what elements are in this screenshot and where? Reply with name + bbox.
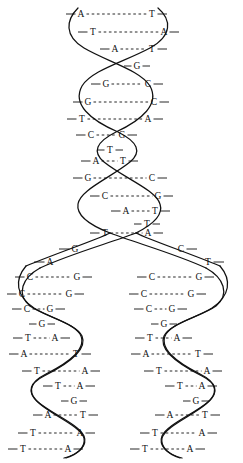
base-letter: T	[90, 27, 96, 37]
base-letter: A	[174, 333, 181, 343]
base-pair-row: CG	[129, 289, 206, 299]
base-letter: T	[30, 428, 36, 438]
base-letter: C	[141, 289, 147, 299]
base-letter: T	[147, 333, 153, 343]
base-pair-row: AT	[155, 410, 220, 420]
base-letter: C	[151, 97, 157, 107]
base-letter: G	[155, 191, 162, 201]
base-pair-row: CG	[134, 304, 187, 314]
base-letter: G	[85, 97, 92, 107]
base-pair-row: AT	[66, 9, 167, 19]
base-letter: T	[152, 206, 158, 216]
base-letter: T	[156, 366, 162, 376]
base-pair-row: G	[29, 319, 55, 329]
base-letter: T	[205, 257, 211, 267]
base-letter: T	[142, 444, 148, 454]
base-letter: A	[112, 44, 119, 54]
base-letter: T	[34, 366, 40, 376]
base-pair-row: CG	[90, 191, 173, 201]
base-letter: A	[45, 410, 52, 420]
base-letter: A	[145, 114, 152, 124]
base-pair-rung-layer: ATTAATGGCGCTACGTATGCCGATTTACGCGCGGTAATTA…	[7, 9, 222, 454]
base-letter: G	[161, 319, 168, 329]
base-pair-row: TA	[144, 366, 222, 376]
base-letter: C	[149, 173, 155, 183]
base-letter: A	[77, 381, 84, 391]
base-letter: G	[66, 289, 73, 299]
base-letter: G	[188, 289, 195, 299]
base-pair-row: TA	[67, 114, 163, 124]
base-pair-row: AT	[81, 156, 138, 166]
base-pair-row: GC	[91, 79, 163, 89]
base-letter: G	[169, 304, 176, 314]
strand-left-back	[18, 266, 84, 458]
strand-fork-left-inner	[26, 233, 110, 266]
base-letter: T	[25, 333, 31, 343]
base-letter: T	[55, 381, 61, 391]
base-letter: A	[204, 366, 211, 376]
base-letter: T	[149, 9, 155, 19]
base-letter: A	[82, 366, 89, 376]
base-letter: A	[145, 228, 152, 238]
base-letter: C	[146, 304, 152, 314]
base-letter: A	[123, 206, 130, 216]
base-letter: A	[161, 27, 168, 37]
base-letter: C	[88, 130, 94, 140]
base-letter: C	[19, 289, 25, 299]
base-letter: T	[73, 349, 79, 359]
strand-fork-right-outer	[110, 233, 206, 268]
base-letter: A	[21, 349, 28, 359]
base-pair-row: TA	[165, 381, 217, 391]
base-pair-row: TA	[13, 333, 70, 343]
base-letter: G	[193, 396, 200, 406]
base-letter: C	[102, 191, 108, 201]
base-letter: G	[196, 272, 203, 282]
base-pair-row: GC	[73, 173, 167, 183]
base-letter: C	[24, 304, 30, 314]
dna-diagram-canvas: ATTAATGGCGCTACGTATGCCGATTTACGCGCGGTAATTA…	[0, 0, 243, 463]
base-pair-row: CG	[7, 289, 84, 299]
base-letter: T	[120, 156, 126, 166]
base-letter: A	[143, 349, 150, 359]
base-pair-row: CG	[12, 304, 65, 314]
strand-right-back	[162, 266, 228, 458]
base-letter: T	[20, 444, 26, 454]
base-letter: A	[199, 428, 206, 438]
fork-right-arm-base: C	[178, 244, 197, 254]
base-letter: T	[80, 410, 86, 420]
base-letter: T	[107, 145, 113, 155]
base-pair-row: TA	[140, 428, 217, 438]
base-pair-row: TA	[43, 381, 95, 391]
base-letter: G	[134, 61, 141, 71]
base-letter: T	[177, 381, 183, 391]
base-letter: A	[47, 257, 54, 267]
base-letter: G	[71, 396, 78, 406]
base-letter: T	[195, 349, 201, 359]
base-letter: A	[77, 428, 84, 438]
base-letter: C	[149, 272, 155, 282]
base-letter: A	[93, 156, 100, 166]
base-letter: T	[149, 44, 155, 54]
base-pair-row: CG	[15, 272, 92, 282]
base-pair-row: TA	[130, 444, 205, 454]
base-pair-row: CG	[137, 272, 214, 282]
fork-right-arm-base: T	[205, 257, 224, 267]
dna-replication-figure: ATTAATGGCGCTACGTATGCCGATTTACGCGCGGTAATTA…	[0, 0, 243, 463]
base-letter: C	[145, 79, 151, 89]
base-letter: A	[78, 9, 85, 19]
base-letter: T	[152, 428, 158, 438]
base-letter: G	[103, 79, 110, 89]
base-letter: C	[27, 272, 33, 282]
base-pair-row: T	[97, 145, 123, 155]
base-pair-row: TA	[78, 27, 179, 37]
base-letter: G	[85, 173, 92, 183]
base-letter: G	[47, 304, 54, 314]
base-letter: A	[52, 333, 59, 343]
base-letter: A	[167, 410, 174, 420]
base-letter: A	[65, 444, 72, 454]
base-letter: C	[178, 244, 184, 254]
base-pair-row: AT	[9, 349, 91, 359]
base-pair-row: GC	[73, 97, 169, 107]
base-letter: T	[202, 410, 208, 420]
base-pair-row: G	[61, 396, 87, 406]
